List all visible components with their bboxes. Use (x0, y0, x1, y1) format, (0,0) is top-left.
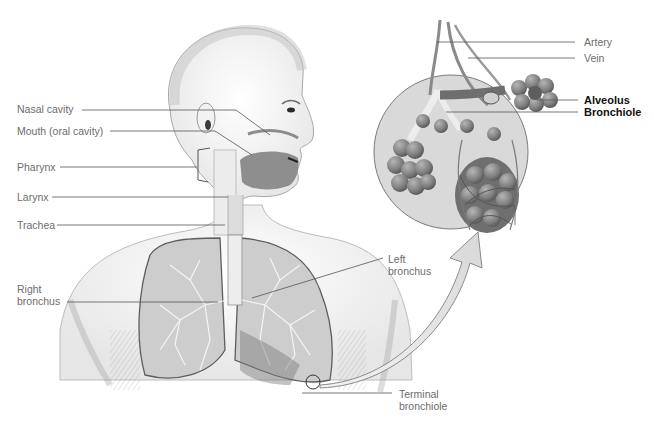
head (168, 28, 313, 235)
label-mouth-oral-cavity: Mouth (oral cavity) (17, 125, 103, 137)
label-left-bronchus-line1: Left (388, 253, 431, 265)
label-left-bronchus: Left bronchus (388, 253, 431, 277)
label-terminal-bronchiole-line1: Terminal (399, 388, 447, 400)
label-vein: Vein (584, 52, 604, 64)
label-right-bronchus-line2: bronchus (17, 295, 60, 307)
label-nasal-cavity: Nasal cavity (17, 103, 74, 115)
label-trachea: Trachea (17, 219, 55, 231)
label-pharynx: Pharynx (17, 161, 56, 173)
anatomy-illustration (0, 0, 654, 431)
magnified-alveoli-view (374, 20, 558, 233)
label-alveolus: Alveolus (584, 94, 630, 106)
label-larynx: Larynx (17, 191, 49, 203)
label-right-bronchus: Right bronchus (17, 283, 60, 307)
label-left-bronchus-line2: bronchus (388, 265, 431, 277)
respiratory-diagram: Nasal cavity Mouth (oral cavity) Pharynx… (0, 0, 654, 431)
label-terminal-bronchiole-line2: bronchiole (399, 400, 447, 412)
label-terminal-bronchiole: Terminal bronchiole (399, 388, 447, 412)
label-artery: Artery (584, 36, 612, 48)
label-right-bronchus-line1: Right (17, 283, 60, 295)
label-bronchiole: Bronchiole (584, 106, 641, 118)
